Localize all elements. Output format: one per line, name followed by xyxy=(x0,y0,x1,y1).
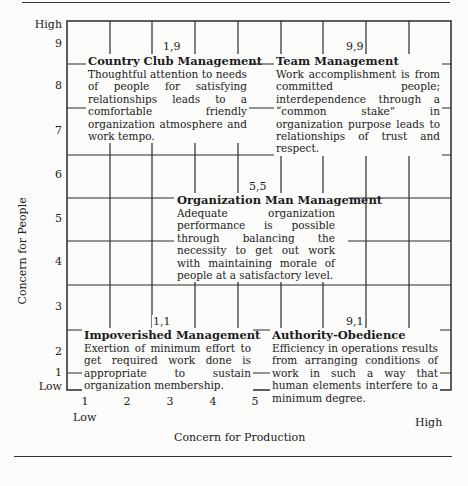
style-title: Organization Man Management xyxy=(177,194,345,207)
x-axis-title: Concern for Production xyxy=(174,431,305,444)
x-tick-5: 5 xyxy=(245,396,265,408)
style-box-authority-obedience: Authority-Obedience Efficiency in operat… xyxy=(270,328,440,405)
y-tick-4: 4 xyxy=(32,256,62,268)
x-tick-2: 2 xyxy=(117,396,137,408)
style-title: Team Management xyxy=(276,55,440,68)
y-tick-3: 3 xyxy=(32,301,62,313)
coord-label-1-1: 1,1 xyxy=(152,315,172,328)
style-description: Work accomplishment is from committed pe… xyxy=(276,68,440,155)
y-tick-2: 2 xyxy=(32,346,62,358)
style-title: Authority-Obedience xyxy=(272,329,438,342)
x-tick-1: 1 xyxy=(75,396,95,408)
coord-label-1-9: 1,9 xyxy=(162,40,182,53)
y-axis-high-label: High xyxy=(32,19,62,31)
y-tick-1: 1 xyxy=(32,367,62,379)
style-box-team: Team Management Work accomplishment is f… xyxy=(274,54,442,156)
y-axis-low-label: Low xyxy=(32,381,62,393)
style-title: Country Club Management xyxy=(88,55,247,68)
coord-label-9-1: 9,1 xyxy=(345,315,365,328)
style-box-organization-man: Organization Man Management Adequate org… xyxy=(174,193,348,282)
y-tick-7: 7 xyxy=(32,125,62,137)
y-tick-5: 5 xyxy=(32,213,62,225)
style-title: Impoverished Management xyxy=(84,329,251,342)
x-axis-high-label: High xyxy=(415,417,442,429)
style-box-impoverished: Impoverished Management Exertion of mini… xyxy=(82,328,253,393)
style-description: Exertion of minimum effort to get requir… xyxy=(84,342,251,392)
x-tick-3: 3 xyxy=(160,396,180,408)
y-axis-title: Concern for People xyxy=(16,205,29,305)
y-tick-9: 9 xyxy=(32,38,62,50)
x-axis-low-label: Low xyxy=(73,412,96,424)
style-description: Thoughtful attention to needs of people … xyxy=(88,68,247,142)
style-box-country-club: Country Club Management Thoughtful atten… xyxy=(86,54,249,143)
y-tick-6: 6 xyxy=(32,169,62,181)
coord-label-5-5: 5,5 xyxy=(248,180,268,193)
style-description: Efficiency in operations results from ar… xyxy=(272,342,438,404)
style-description: Adequate organization performance is pos… xyxy=(177,207,335,281)
y-tick-8: 8 xyxy=(32,80,62,92)
x-tick-4: 4 xyxy=(203,396,223,408)
coord-label-9-9: 9,9 xyxy=(345,40,365,53)
